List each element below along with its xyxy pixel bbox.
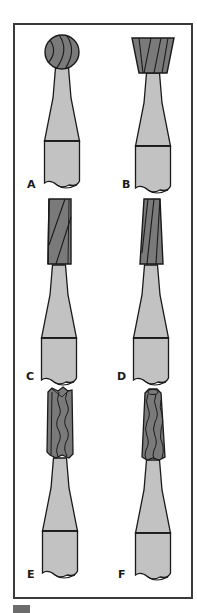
bur-e xyxy=(43,387,78,578)
bur-diagram: A B C D xyxy=(0,0,197,613)
tapered-fissure-head-icon xyxy=(140,199,163,264)
panel-label-c: C xyxy=(26,370,34,383)
panel-label-e: E xyxy=(27,568,35,581)
panel-label-b: B xyxy=(122,178,130,191)
crosscut-straight-head-icon xyxy=(47,387,73,458)
panel-label-f: F xyxy=(118,568,126,581)
bur-b xyxy=(132,38,174,193)
inverted-cone-head-icon xyxy=(132,38,174,73)
bur-a xyxy=(45,35,80,188)
bur-c xyxy=(42,199,77,385)
crosscut-tapered-head-icon xyxy=(142,389,165,460)
panel-label-a: A xyxy=(27,178,36,191)
section-marker xyxy=(13,605,30,613)
straight-fissure-head-icon xyxy=(48,199,71,264)
round-head-icon xyxy=(45,35,79,69)
bur-f xyxy=(136,389,171,580)
bur-d xyxy=(134,199,169,385)
panel-label-d: D xyxy=(117,370,126,383)
